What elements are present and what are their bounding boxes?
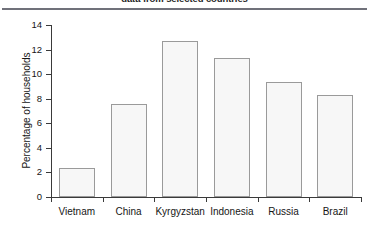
x-axis-tick	[206, 197, 207, 202]
x-axis-tick	[361, 197, 362, 202]
chart-figure: data from selected countries Percentage …	[0, 0, 369, 233]
y-axis-tick-label: 0	[2, 192, 42, 202]
y-axis-line	[51, 25, 52, 197]
y-axis-tick	[46, 123, 51, 124]
y-axis-tick-label: 8	[2, 94, 42, 104]
x-axis-tick	[103, 197, 104, 202]
y-axis-tick	[46, 74, 51, 75]
x-axis-tick	[51, 197, 52, 202]
y-axis-tick-label: 12	[2, 45, 42, 55]
bar	[214, 58, 250, 197]
y-axis-tick	[46, 25, 51, 26]
y-axis-tick	[46, 50, 51, 51]
y-axis-tick	[46, 172, 51, 173]
bar	[59, 168, 95, 197]
bar	[111, 104, 147, 197]
plot-area: Percentage of households 02468101214 Vie…	[0, 0, 369, 233]
x-axis-tick	[258, 197, 259, 202]
y-axis-tick-label: 2	[2, 167, 42, 177]
x-axis-tick	[309, 197, 310, 202]
y-axis-tick-label: 14	[2, 20, 42, 30]
bar	[266, 82, 302, 197]
x-axis-tick-label: Brazil	[285, 207, 369, 217]
bar	[162, 41, 198, 197]
y-axis-tick	[46, 148, 51, 149]
y-axis-tick-label: 6	[2, 118, 42, 128]
y-axis-tick-label: 10	[2, 69, 42, 79]
x-axis-tick	[154, 197, 155, 202]
y-axis-tick	[46, 99, 51, 100]
y-axis-tick-label: 4	[2, 143, 42, 153]
bar	[317, 95, 353, 197]
